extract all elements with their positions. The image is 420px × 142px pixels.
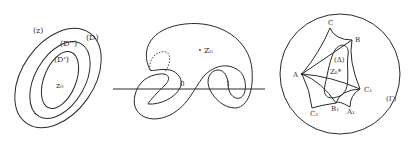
label-domain-D1: (D') bbox=[54, 55, 69, 64]
label-z0-star: Z₀* bbox=[330, 68, 342, 76]
label-A: A bbox=[292, 71, 299, 79]
label-domain-D: (D) bbox=[86, 33, 99, 42]
vertex-A bbox=[301, 73, 303, 75]
label-origin: 0 bbox=[180, 80, 184, 88]
label-C2: C₂ bbox=[310, 110, 318, 118]
outer-domain-curve bbox=[0, 12, 119, 142]
domain-boundary bbox=[134, 23, 252, 118]
label-delta: (Δ) bbox=[334, 56, 345, 64]
dotted-loop bbox=[150, 52, 170, 72]
label-domain-D2: (D'') bbox=[60, 39, 77, 48]
label-A1: A₁ bbox=[346, 108, 355, 116]
label-gamma: (Γ) bbox=[386, 95, 397, 103]
figure-canvas: (z) (D) (D'') (D') z₀ Z₀ 0 1 A B C C₁ B₁… bbox=[0, 0, 420, 142]
label-Z0: Z₀ bbox=[204, 46, 213, 55]
figure-1-nested-domains: (z) (D) (D'') (D') z₀ bbox=[0, 12, 119, 142]
label-C1: C₁ bbox=[364, 86, 372, 94]
line-A-C1 bbox=[302, 74, 360, 89]
label-z0: z₀ bbox=[56, 81, 63, 90]
label-one: 1 bbox=[226, 80, 230, 88]
label-B1: B₁ bbox=[331, 105, 339, 113]
point-z0 bbox=[199, 49, 201, 51]
figure-3-hyperbolic-polygon: A B C C₁ B₁ A₁ C₂ (Δ) Z₀* (Γ) bbox=[280, 14, 400, 134]
label-B: B bbox=[355, 36, 360, 44]
figure-2-curved-domain: Z₀ 0 1 bbox=[113, 23, 265, 118]
label-plane-z: (z) bbox=[33, 26, 43, 35]
label-C: C bbox=[328, 19, 333, 27]
